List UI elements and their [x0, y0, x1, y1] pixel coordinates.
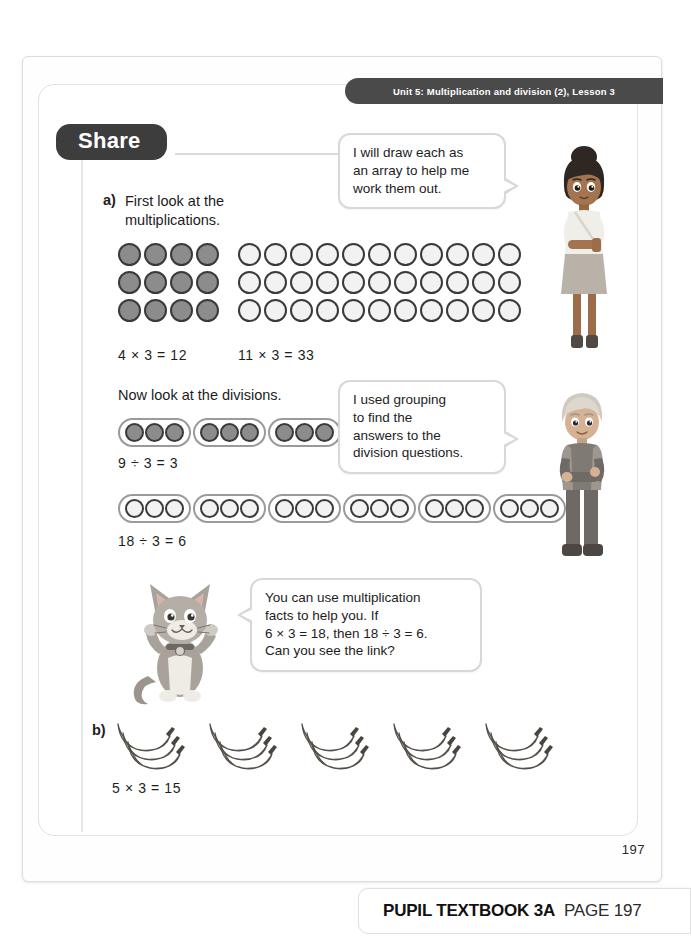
eleven-by-three-array: [238, 243, 521, 322]
counter-light: [264, 271, 287, 294]
part-a-instruction: First look at the multiplications.: [125, 192, 315, 230]
counter-light: [264, 243, 287, 266]
boy-bubble-tail: [504, 430, 519, 448]
counter-light: [145, 499, 164, 518]
counter-light: [125, 499, 144, 518]
share-connector-line: [175, 153, 340, 155]
counter-group: [193, 494, 266, 523]
counter-light: [370, 499, 389, 518]
counter-light: [238, 299, 261, 322]
counter-light: [465, 499, 484, 518]
counter-light: [200, 499, 219, 518]
counter-light: [342, 243, 365, 266]
banana-bunch: [112, 712, 186, 770]
counter-light: [220, 499, 239, 518]
part-a-label: a): [103, 192, 116, 208]
part-a-instruction-line-1: First look at the: [125, 193, 224, 209]
banana-bunch-row: [112, 712, 554, 770]
counter-dark: [170, 243, 193, 266]
page-number: 197: [622, 842, 645, 857]
counter-dark: [165, 423, 184, 442]
share-section-badge: Share: [56, 124, 167, 160]
equation-5x3: 5 × 3 = 15: [112, 780, 181, 796]
counter-light: [420, 299, 443, 322]
counter-light: [520, 499, 539, 518]
counter-light: [316, 243, 339, 266]
banana-bunch: [388, 712, 462, 770]
part-a-instruction-line-2: multiplications.: [125, 212, 220, 228]
cat-bubble-tail: [237, 606, 252, 624]
counter-light: [498, 243, 521, 266]
nine-divided-by-three-groups: [118, 418, 341, 447]
counter-light: [368, 271, 391, 294]
counter-dark: [200, 423, 219, 442]
girl-bubble-line-3: work them out.: [353, 180, 492, 198]
counter-light: [446, 243, 469, 266]
array-row: [238, 299, 521, 322]
counter-light: [368, 243, 391, 266]
counter-light: [472, 271, 495, 294]
array-row: [118, 271, 219, 294]
part-b-label: b): [92, 722, 106, 738]
counter-light: [238, 271, 261, 294]
counter-dark: [170, 271, 193, 294]
four-by-three-array: [118, 243, 219, 322]
equation-18div3: 18 ÷ 3 = 6: [118, 533, 187, 549]
banana-bunch: [480, 712, 554, 770]
array-row: [238, 271, 521, 294]
footer-bar: PUPIL TEXTBOOK 3A PAGE 197: [358, 888, 691, 934]
equation-11x3: 11 × 3 = 33: [238, 347, 314, 363]
counter-dark: [170, 299, 193, 322]
counter-dark: [118, 299, 141, 322]
girl-character: [540, 142, 622, 362]
footer-book-label: PUPIL TEXTBOOK 3A: [383, 901, 555, 921]
counter-light: [165, 499, 184, 518]
counter-light: [350, 499, 369, 518]
boy-illustration-svg: [540, 386, 622, 572]
counter-light: [445, 499, 464, 518]
counter-light: [390, 499, 409, 518]
counter-light: [446, 271, 469, 294]
counter-light: [472, 299, 495, 322]
counter-dark: [196, 299, 219, 322]
counter-light: [498, 271, 521, 294]
share-stem-line: [81, 160, 83, 832]
equation-9div3: 9 ÷ 3 = 3: [118, 455, 178, 471]
counter-dark: [118, 271, 141, 294]
boy-character: [540, 386, 622, 576]
banana-bunch: [296, 712, 370, 770]
array-row: [238, 243, 521, 266]
counter-light: [500, 499, 519, 518]
equation-4x3: 4 × 3 = 12: [118, 347, 187, 363]
counter-light: [472, 243, 495, 266]
counter-group: [118, 494, 191, 523]
counter-light: [446, 299, 469, 322]
counter-dark: [275, 423, 294, 442]
boy-bubble-line-3: answers to the: [353, 427, 492, 445]
boy-bubble-line-1: I used grouping: [353, 391, 492, 409]
counter-light: [316, 299, 339, 322]
cat-mascot-illustration-svg: [126, 572, 244, 708]
counter-light: [315, 499, 334, 518]
counter-dark: [144, 243, 167, 266]
boy-bubble-line-2: to find the: [353, 409, 492, 427]
cat-bubble-line-4: Can you see the link?: [265, 642, 468, 660]
counter-light: [394, 299, 417, 322]
counter-light: [290, 271, 313, 294]
array-row: [118, 299, 219, 322]
cat-character: [126, 572, 244, 712]
counter-light: [295, 499, 314, 518]
counter-dark: [220, 423, 239, 442]
counter-group: [118, 418, 191, 447]
counter-light: [275, 499, 294, 518]
unit-banner: Unit 5: Multiplication and division (2),…: [345, 78, 663, 104]
girl-illustration-svg: [540, 142, 622, 358]
counter-light: [316, 271, 339, 294]
girl-bubble-tail: [504, 177, 519, 195]
unit-banner-label: Unit 5: Multiplication and division (2),…: [393, 86, 615, 97]
eighteen-divided-by-three-groups: [118, 494, 566, 523]
counter-light: [240, 499, 259, 518]
cat-bubble-line-2: facts to help you. If: [265, 607, 468, 625]
counter-dark: [196, 271, 219, 294]
counter-dark: [145, 423, 164, 442]
